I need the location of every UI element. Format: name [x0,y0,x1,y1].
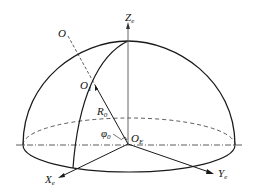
angle-label: φ0 [101,128,111,141]
z-axis-label: Ze [125,12,134,25]
point-o-label: O [58,28,66,39]
base-ellipse-front [23,145,235,172]
y-axis-label: Ye [218,168,227,181]
angle-pointer [113,134,122,140]
hemisphere-diagram [0,0,256,194]
y-axis [128,144,209,172]
origin-label: OE [131,133,143,146]
radius-label: R0 [97,106,107,119]
x-axis-label: Xe [45,174,55,187]
o-to-o1-dashed-line [68,36,95,85]
y-axis-arrow-icon [206,169,214,174]
dome-outline [23,41,235,145]
point-o1-label: O1 [80,80,91,93]
x-axis-arrow-icon [58,173,65,178]
base-ellipse-back [23,118,235,145]
